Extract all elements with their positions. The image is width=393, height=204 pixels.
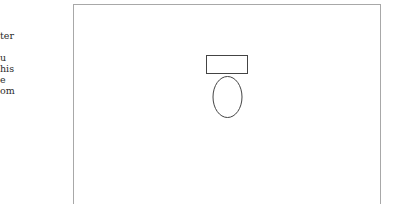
toilet-icon [207,56,248,118]
toilet-tank [207,56,248,74]
floor-plan-drawing [0,0,393,204]
toilet-bowl [213,77,242,118]
